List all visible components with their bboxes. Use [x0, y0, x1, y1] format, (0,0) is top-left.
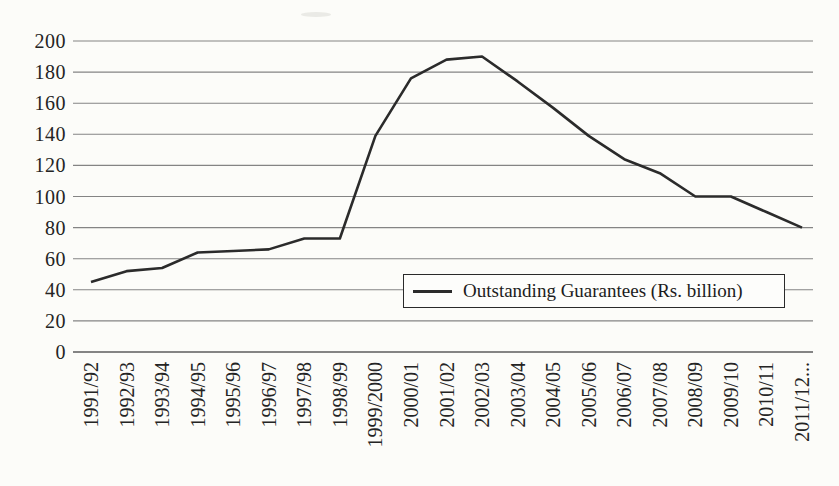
x-tick-label: 2003/04	[507, 362, 529, 472]
x-tick-label: 2008/09	[684, 362, 706, 472]
legend-label: Outstanding Guarantees (Rs. billion)	[463, 280, 743, 302]
x-tick-label: 1997/98	[293, 362, 315, 472]
y-tick-label: 140	[4, 123, 66, 145]
x-tick-label: 2010/11	[755, 362, 777, 472]
x-tick-label: 1992/93	[116, 362, 138, 472]
x-tick-label: 2011/12...	[791, 362, 813, 472]
x-tick-label: 1994/95	[187, 362, 209, 472]
x-tick-label: 1993/94	[151, 362, 173, 472]
y-tick-label: 120	[4, 154, 66, 176]
chart-page: 020406080100120140160180200 1991/921992/…	[0, 0, 839, 486]
x-tick-label: 2005/06	[578, 362, 600, 472]
y-tick-label: 20	[4, 310, 66, 332]
x-tick-label: 1991/92	[80, 362, 102, 472]
y-tick-label: 100	[4, 186, 66, 208]
data-line	[91, 57, 802, 282]
x-tick-label: 2006/07	[613, 362, 635, 472]
legend-line-sample	[413, 290, 452, 293]
x-tick-label: 2009/10	[720, 362, 742, 472]
y-tick-label: 40	[4, 279, 66, 301]
x-tick-label: 2001/02	[436, 362, 458, 472]
x-tick-label: 1995/96	[222, 362, 244, 472]
x-tick-label: 2000/01	[400, 362, 422, 472]
y-tick-label: 60	[4, 248, 66, 270]
y-tick-label: 160	[4, 92, 66, 114]
x-tick-label: 2007/08	[649, 362, 671, 472]
x-tick-label: 1996/97	[258, 362, 280, 472]
y-tick-label: 180	[4, 61, 66, 83]
x-tick-label: 2002/03	[471, 362, 493, 472]
x-tick-label: 1998/99	[329, 362, 351, 472]
y-tick-label: 200	[4, 30, 66, 52]
scan-artifact	[301, 12, 331, 17]
y-tick-label: 80	[4, 217, 66, 239]
legend: Outstanding Guarantees (Rs. billion)	[403, 274, 785, 308]
y-tick-label: 0	[4, 341, 66, 363]
x-tick-label: 2004/05	[542, 362, 564, 472]
x-tick-label: 1999/2000	[364, 362, 386, 472]
